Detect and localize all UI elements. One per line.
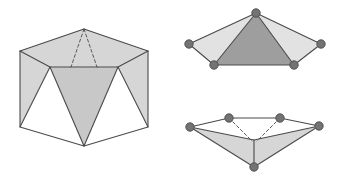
figure-top-right-fan <box>185 9 325 69</box>
vertex-dot-top-left <box>225 114 233 122</box>
figure-left-antiprism <box>20 29 148 146</box>
vertex-dot-apex <box>252 9 260 17</box>
geometry-illustration <box>0 0 341 182</box>
vertex-dot-right-outer <box>317 40 325 48</box>
vertex-dot-top-right <box>276 114 284 122</box>
figure-board <box>0 0 341 182</box>
vertex-dot-right-outer <box>315 122 323 130</box>
vertex-dot-left-outer <box>185 40 193 48</box>
vertex-dot-left-outer <box>186 123 194 131</box>
vertex-dot-base-left <box>210 61 218 69</box>
vertex-dot-base-right <box>290 61 298 69</box>
figure-bottom-right-fan <box>186 114 323 171</box>
vertex-dot-bottom-apex <box>250 163 258 171</box>
